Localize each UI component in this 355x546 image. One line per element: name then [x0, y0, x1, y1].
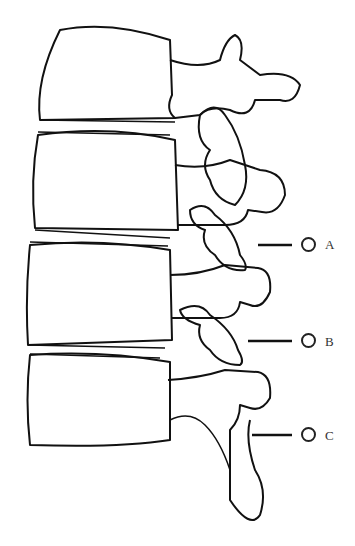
spinous-process-1	[170, 35, 300, 118]
vertebral-body-1	[39, 27, 175, 120]
facet-2	[190, 206, 246, 270]
vertebral-body-3	[27, 242, 172, 345]
label-c: C	[325, 428, 334, 444]
vertebrae-drawing	[0, 0, 355, 546]
facet-1	[199, 108, 247, 206]
vertebral-body-2	[33, 131, 178, 230]
label-a: A	[325, 237, 334, 253]
label-marker-a	[301, 237, 316, 252]
label-marker-b	[301, 333, 316, 348]
vertebral-body-4	[28, 354, 171, 446]
label-b: B	[325, 334, 334, 350]
label-marker-c	[301, 427, 316, 442]
spinous-process-3	[170, 265, 270, 318]
